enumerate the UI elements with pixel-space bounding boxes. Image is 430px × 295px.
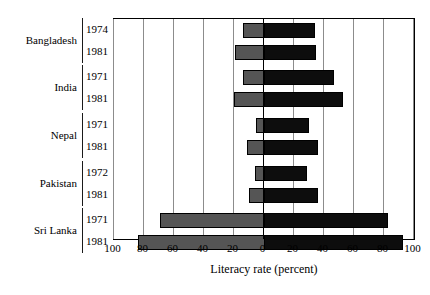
bar-right-pakistan-1981 [264, 188, 318, 203]
bar-right-nepal-1981 [264, 140, 318, 155]
year-label: 1981 [86, 93, 113, 104]
country-label: Bangladesh [0, 18, 82, 63]
bar-right-sri-lanka-1971 [264, 213, 389, 228]
bar-left-bangladesh-1974 [243, 23, 265, 38]
category-label-column: Bangladesh19741981India19711981Nepal1971… [0, 18, 113, 240]
x-tick-label: 80 [137, 242, 148, 254]
bar-right-pakistan-1972 [264, 166, 308, 181]
x-tick-label: 60 [167, 242, 178, 254]
bar-left-india-1981 [234, 92, 265, 107]
year-brace: 19711981 [82, 65, 113, 110]
bar-right-india-1971 [264, 70, 335, 85]
country-label: Pakistan [0, 161, 82, 206]
zero-axis-line [263, 19, 265, 239]
plot-area [113, 18, 415, 240]
year-brace: 19721981 [82, 161, 113, 206]
bar-right-bangladesh-1974 [264, 23, 315, 38]
year-label: 1981 [86, 46, 113, 57]
year-label: 1974 [86, 24, 113, 35]
bar-left-sri-lanka-1971 [160, 213, 265, 228]
country-label: India [0, 65, 82, 110]
x-tick-label: 40 [317, 242, 328, 254]
x-tick-label: 0 [260, 242, 266, 254]
x-tick-label: 20 [287, 242, 298, 254]
country-group-sri-lanka: Sri Lanka19711981 [0, 208, 113, 253]
country-group-bangladesh: Bangladesh19741981 [0, 18, 113, 63]
x-tick-label: 40 [197, 242, 208, 254]
x-tick-label: 60 [347, 242, 358, 254]
x-tick-label: 100 [404, 242, 421, 254]
country-group-india: India19711981 [0, 65, 113, 110]
plot-inner [114, 19, 414, 239]
year-label: 1971 [86, 119, 113, 130]
country-label: Nepal [0, 113, 82, 158]
x-tick-label: 80 [377, 242, 388, 254]
bar-left-india-1971 [243, 70, 265, 85]
x-axis-title: Literacy rate (percent) [113, 262, 415, 277]
year-brace: 19741981 [82, 18, 113, 63]
bar-right-nepal-1971 [264, 118, 309, 133]
country-group-pakistan: Pakistan19721981 [0, 161, 113, 206]
bar-right-india-1981 [264, 92, 344, 107]
chart-page: Bangladesh19741981India19711981Nepal1971… [0, 0, 430, 295]
year-brace: 19711981 [82, 113, 113, 158]
bar-right-bangladesh-1981 [264, 45, 317, 60]
country-group-nepal: Nepal19711981 [0, 113, 113, 158]
year-label: 1981 [86, 189, 113, 200]
x-tick-label: 100 [104, 242, 121, 254]
x-tick-label: 20 [227, 242, 238, 254]
year-label: 1972 [86, 167, 113, 178]
year-label: 1971 [86, 214, 113, 225]
x-axis-ticks: 10080604020020406080100 [113, 240, 415, 260]
bar-left-bangladesh-1981 [235, 45, 265, 60]
year-label: 1971 [86, 71, 113, 82]
year-label: 1981 [86, 141, 113, 152]
country-label: Sri Lanka [0, 208, 82, 253]
